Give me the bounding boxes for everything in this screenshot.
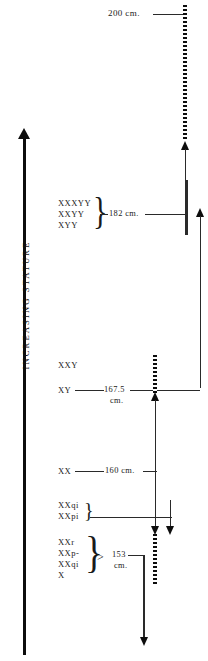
- axis-stem: [23, 137, 26, 655]
- measurement-unit-167: cm.: [110, 396, 124, 405]
- genotype-label-xxxyy: XXXYY: [58, 198, 91, 208]
- leader-line-xxqi-xxpi: [90, 517, 172, 518]
- arrow-stem-short-range: [170, 500, 172, 528]
- measurement-label-167: 167.5: [104, 385, 125, 394]
- leader-line-182-left: [100, 214, 108, 215]
- leader-line-200: [153, 14, 184, 15]
- brace-tall-group: }: [93, 192, 107, 230]
- leader-line-160-right: [143, 471, 157, 472]
- dashed-range-upper: [183, 5, 187, 141]
- leader-line-167-left: [75, 390, 104, 391]
- genotype-label-xxy: XXY: [58, 360, 78, 370]
- leader-line-167-right: [130, 390, 200, 391]
- genotype-label-xxp-minus: XXp-: [58, 548, 79, 558]
- arrow-stem-secondary-range: [200, 216, 202, 388]
- arrow-stem-lowest-range: [143, 555, 145, 639]
- genotype-label-xx: XX: [58, 466, 71, 476]
- leader-line-160-left: [75, 471, 104, 472]
- genotype-label-xxqi: XXqi: [58, 500, 79, 510]
- genotype-label-xxr: XXr: [58, 537, 74, 547]
- measurement-label-200: 200 cm.: [108, 8, 140, 18]
- genotype-label-xxqi-lower: XXqi: [58, 559, 79, 569]
- genotype-label-xyy: XYY: [58, 220, 78, 230]
- dashed-range-lower: [153, 534, 157, 586]
- leader-line-182-right: [145, 214, 186, 215]
- measurement-unit-153: cm.: [114, 561, 128, 570]
- arrow-stem-middle-range: [155, 400, 157, 528]
- stature-genotype-figure: INCREASING STATURE 200 cm. XXXYY XXYY XY…: [0, 0, 208, 661]
- genotype-label-xxpi: XXpi: [58, 511, 79, 521]
- range-bar-182: [186, 180, 188, 235]
- measurement-label-153: 153: [112, 550, 126, 559]
- dashed-range-middle: [153, 355, 157, 393]
- measurement-label-182: 182 cm.: [109, 209, 139, 218]
- genotype-label-xxyy: XXYY: [58, 209, 84, 219]
- comparator-greater-than: >: [97, 550, 104, 565]
- genotype-label-xy: XY: [58, 385, 71, 395]
- axis-label-increasing-stature: INCREASING STATURE: [21, 235, 31, 375]
- arrowhead-down-lowest-range: [140, 637, 148, 646]
- measurement-label-160: 160 cm.: [105, 466, 135, 475]
- genotype-label-x: X: [58, 570, 65, 580]
- leader-line-153: [128, 555, 144, 556]
- arrowhead-down-short-range: [166, 526, 174, 535]
